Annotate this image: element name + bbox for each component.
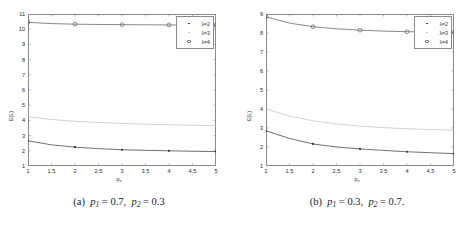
caption-b-p1: 0.3 bbox=[347, 196, 360, 207]
y-tick-label: 7 bbox=[260, 49, 263, 55]
figure-two-panel-plots: 1234567891011 11.522.533.544.55 λ=2 λ=3 … bbox=[0, 0, 476, 232]
y-tick-label: 9 bbox=[22, 41, 25, 47]
y-tick-label: 5 bbox=[22, 102, 25, 108]
legend-marker-dot-icon bbox=[179, 19, 199, 28]
plot-area-b: 123456789 11.522.533.544.55 λ=2 λ=3 λ=4 bbox=[266, 14, 454, 166]
x-tick-label: 3.5 bbox=[142, 168, 150, 174]
data-point-marker bbox=[453, 153, 454, 155]
legend-marker-dotted-icon bbox=[179, 28, 199, 37]
y-tick-label: 1 bbox=[260, 163, 263, 169]
caption-a-prefix: (a) bbox=[73, 196, 85, 207]
y-axis-label-b: E(L) bbox=[246, 111, 252, 121]
plot-area-a: 1234567891011 11.522.533.544.55 λ=2 λ=3 … bbox=[28, 14, 216, 166]
x-tick-label: 2 bbox=[311, 168, 314, 174]
series-line bbox=[28, 117, 216, 126]
x-tick-label: 2.5 bbox=[333, 168, 341, 174]
legend-label-lambda-4: λ=4 bbox=[437, 39, 448, 45]
panel-b: 123456789 11.522.533.544.55 λ=2 λ=3 λ=4 … bbox=[238, 0, 476, 232]
x-tick-label: 4 bbox=[167, 168, 170, 174]
caption-a-p1: 0.7 bbox=[110, 196, 123, 207]
caption-b-eq1: = bbox=[339, 196, 345, 207]
data-point-marker bbox=[168, 150, 170, 152]
x-tick-label: 2.5 bbox=[95, 168, 103, 174]
legend-label-lambda-3: λ=3 bbox=[199, 30, 210, 36]
data-point-marker bbox=[121, 149, 123, 151]
x-tick-label: 1 bbox=[26, 168, 29, 174]
y-tick-label: 3 bbox=[260, 125, 263, 131]
x-tick-label: 4 bbox=[405, 168, 408, 174]
caption-a-eq2: = bbox=[143, 196, 149, 207]
y-tick-label: 10 bbox=[19, 26, 25, 32]
y-tick-label: 3 bbox=[22, 133, 25, 139]
x-tick-label: 3 bbox=[120, 168, 123, 174]
x-tick-label: 4.5 bbox=[427, 168, 435, 174]
x-tick-label: 3 bbox=[358, 168, 361, 174]
data-point-marker bbox=[266, 130, 267, 132]
caption-b-tail: . bbox=[402, 196, 405, 207]
data-point-marker bbox=[312, 143, 314, 145]
legend-item-lambda-3[interactable]: λ=3 bbox=[417, 28, 448, 37]
x-tick-label: 4.5 bbox=[189, 168, 197, 174]
y-tick-label: 9 bbox=[260, 11, 263, 17]
legend-label-lambda-2: λ=2 bbox=[437, 21, 448, 27]
series-line bbox=[266, 109, 454, 130]
y-tick-label: 8 bbox=[22, 57, 25, 63]
x-tick-label: 1.5 bbox=[48, 168, 56, 174]
y-tick-label: 1 bbox=[22, 163, 25, 169]
legend-a[interactable]: λ=2 λ=3 λ=4 bbox=[176, 16, 214, 49]
y-tick-label: 11 bbox=[19, 11, 25, 17]
x-axis-label-a: pv bbox=[116, 176, 121, 183]
y-tick-label: 5 bbox=[260, 87, 263, 93]
caption-a: (a) p1 = 0.7, p2 = 0.3 bbox=[0, 196, 238, 209]
y-tick-label: 8 bbox=[260, 30, 263, 36]
y-tick-label: 7 bbox=[22, 72, 25, 78]
data-point-marker bbox=[74, 146, 76, 148]
legend-item-lambda-2[interactable]: λ=2 bbox=[417, 19, 448, 28]
x-tick-label: 2 bbox=[73, 168, 76, 174]
legend-item-lambda-3[interactable]: λ=3 bbox=[179, 28, 210, 37]
data-point-marker bbox=[359, 148, 361, 150]
legend-item-lambda-4[interactable]: λ=4 bbox=[179, 37, 210, 46]
caption-a-eq1: = bbox=[102, 196, 108, 207]
legend-marker-dot-icon bbox=[417, 19, 437, 28]
legend-label-lambda-4: λ=4 bbox=[199, 39, 210, 45]
y-axis-label-a: E(L) bbox=[8, 111, 14, 121]
y-tick-label: 4 bbox=[260, 106, 263, 112]
x-tick-label: 1 bbox=[264, 168, 267, 174]
legend-marker-circle-icon bbox=[179, 37, 199, 46]
legend-label-lambda-2: λ=2 bbox=[199, 21, 210, 27]
legend-marker-dotted-icon bbox=[417, 28, 437, 37]
legend-item-lambda-4[interactable]: λ=4 bbox=[417, 37, 448, 46]
y-tick-label: 2 bbox=[260, 144, 263, 150]
legend-marker-circle-icon bbox=[417, 37, 437, 46]
series-line bbox=[266, 131, 454, 154]
panel-a: 1234567891011 11.522.533.544.55 λ=2 λ=3 … bbox=[0, 0, 238, 232]
data-point-marker bbox=[406, 151, 408, 153]
caption-a-p2: 0.3 bbox=[152, 196, 165, 207]
data-point-marker bbox=[28, 140, 29, 142]
y-tick-label: 2 bbox=[22, 148, 25, 154]
x-axis-label-b: pv bbox=[354, 176, 359, 183]
y-tick-label: 6 bbox=[22, 87, 25, 93]
legend-label-lambda-3: λ=3 bbox=[437, 30, 448, 36]
y-tick-label: 4 bbox=[22, 117, 25, 123]
caption-b-eq2: = bbox=[380, 196, 386, 207]
x-tick-label: 5 bbox=[452, 168, 455, 174]
x-tick-label: 1.5 bbox=[286, 168, 294, 174]
x-tick-label: 3.5 bbox=[380, 168, 388, 174]
caption-b-prefix: (b) bbox=[310, 196, 322, 207]
y-tick-label: 6 bbox=[260, 68, 263, 74]
legend-b[interactable]: λ=2 λ=3 λ=4 bbox=[414, 16, 452, 49]
legend-item-lambda-2[interactable]: λ=2 bbox=[179, 19, 210, 28]
caption-b-p2: 0.7 bbox=[389, 196, 402, 207]
x-tick-label: 5 bbox=[214, 168, 217, 174]
caption-b: (b) p1 = 0.3, p2 = 0.7. bbox=[238, 196, 476, 209]
